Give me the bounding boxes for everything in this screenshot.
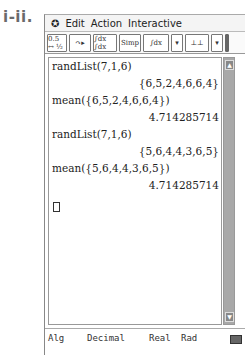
battery-icon bbox=[230, 335, 242, 344]
integral-derivative-button[interactable]: ∫dx ∫dx bbox=[93, 34, 117, 52]
graph-split-button[interactable]: ⊥⊥ bbox=[185, 34, 209, 52]
input-line: mean({5,6,4,4,3,6,5}) bbox=[52, 162, 170, 174]
input-line: randList(7,1,6) bbox=[52, 60, 132, 72]
status-domain[interactable]: Real bbox=[149, 333, 171, 343]
output-line: {5,6,4,4,3,6,5} bbox=[139, 145, 219, 157]
menu-bar: ✪ Edit Action Interactive bbox=[45, 15, 245, 32]
figure-label: i-ii. bbox=[3, 8, 33, 26]
main-work-area[interactable]: randList(7,1,6) {6,5,2,4,6,6,4} mean({6,… bbox=[48, 57, 222, 325]
simp-button[interactable]: Simp bbox=[119, 34, 141, 52]
fraction-decimal-toggle-button[interactable]: 0.5 ↔ ½ bbox=[47, 34, 67, 52]
scroll-up-icon[interactable]: ▲ bbox=[225, 60, 234, 70]
status-bar: Alg Decimal Real Rad bbox=[45, 328, 245, 349]
calculator-window: ✪ Edit Action Interactive 0.5 ↔ ½ ↷▸ ∫dx… bbox=[44, 14, 245, 355]
toolbar: 0.5 ↔ ½ ↷▸ ∫dx ∫dx Simp ∫dx ▾ ⊥⊥ ▾ bbox=[45, 32, 245, 54]
run-pointer-button[interactable]: ↷▸ bbox=[69, 34, 91, 52]
status-mode[interactable]: Alg bbox=[48, 333, 64, 343]
input-line: randList(7,1,6) bbox=[52, 128, 132, 140]
scroll-down-icon[interactable]: ▼ bbox=[225, 312, 234, 322]
dropdown-2-button[interactable]: ▾ bbox=[211, 34, 223, 52]
settings-menu-icon[interactable]: ✪ bbox=[51, 18, 59, 29]
output-line: {6,5,2,4,6,6,4} bbox=[139, 77, 219, 89]
menu-interactive[interactable]: Interactive bbox=[128, 18, 182, 29]
output-line: 4.714285714 bbox=[149, 111, 219, 123]
menu-edit[interactable]: Edit bbox=[65, 18, 84, 29]
dropdown-1-button[interactable]: ▾ bbox=[171, 34, 183, 52]
integral-menu-button[interactable]: ∫dx bbox=[143, 34, 169, 52]
menu-action[interactable]: Action bbox=[91, 18, 122, 29]
output-line: 4.714285714 bbox=[149, 179, 219, 191]
input-line: mean({6,5,2,4,6,6,4}) bbox=[52, 94, 170, 106]
input-cursor[interactable] bbox=[53, 202, 60, 212]
status-number-format[interactable]: Decimal bbox=[87, 333, 125, 343]
toolbar-scroll-handle[interactable] bbox=[225, 34, 229, 52]
vertical-scrollbar[interactable]: ▲ ▼ bbox=[223, 57, 235, 325]
status-angle[interactable]: Rad bbox=[181, 333, 197, 343]
